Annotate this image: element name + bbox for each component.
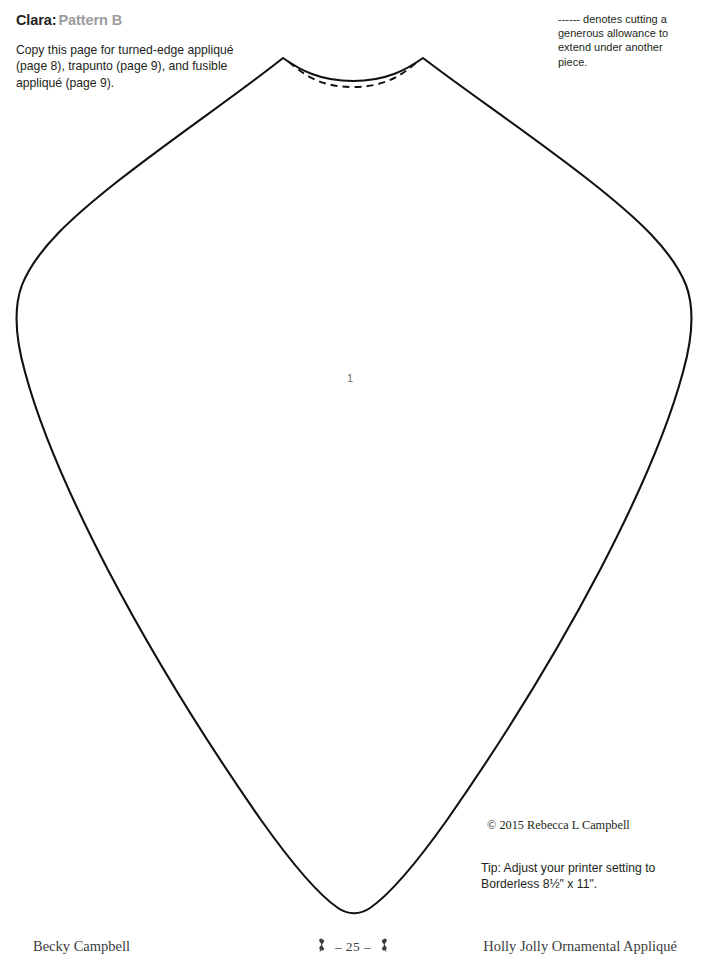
instructions-text: Copy this page for turned-edge appliqué … — [16, 42, 261, 91]
page-number: – 25 – — [335, 939, 371, 954]
seam-allowance-dashed-line — [289, 62, 417, 87]
pattern-outline-path — [17, 58, 692, 913]
pattern-outline-drawing — [0, 0, 706, 960]
piece-number-label: 1 — [340, 372, 360, 384]
footer-book-title: Holly Jolly Ornamental Appliqué — [483, 938, 677, 955]
page-footer: Becky Campbell – 25 – Holly Jolly Orname… — [0, 938, 706, 960]
bird-ornament-icon — [316, 938, 327, 952]
pattern-page: Clara:Pattern B Copy this page for turne… — [0, 0, 706, 960]
cutting-allowance-note: ------ denotes cutting a generous allowa… — [558, 12, 690, 69]
copyright-notice: © 2015 Rebecca L Campbell — [487, 818, 630, 833]
pattern-name: Clara: — [16, 12, 57, 28]
pattern-variant: Pattern B — [59, 12, 123, 28]
page-title: Clara:Pattern B — [16, 12, 122, 28]
bird-ornament-icon — [379, 938, 390, 952]
printer-tip-note: Tip: Adjust your printer setting to Bord… — [481, 860, 671, 892]
